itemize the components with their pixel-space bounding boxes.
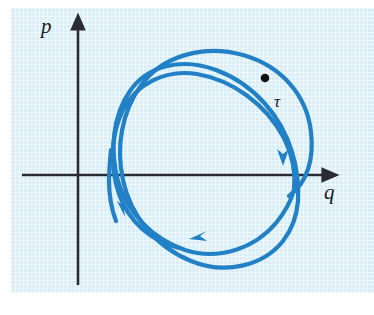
plot-panel: τ xyxy=(11,8,374,293)
arrow-bottom-leftward-icon xyxy=(189,231,207,241)
figure-root: τ p q xyxy=(0,0,374,315)
arrow-right-descending-icon xyxy=(277,149,289,166)
phase-portrait-svg xyxy=(11,8,374,293)
tau-point-marker xyxy=(261,74,270,83)
tau-label: τ xyxy=(274,93,280,110)
p-axis-label: p xyxy=(41,16,52,37)
q-axis-label: q xyxy=(324,182,335,203)
